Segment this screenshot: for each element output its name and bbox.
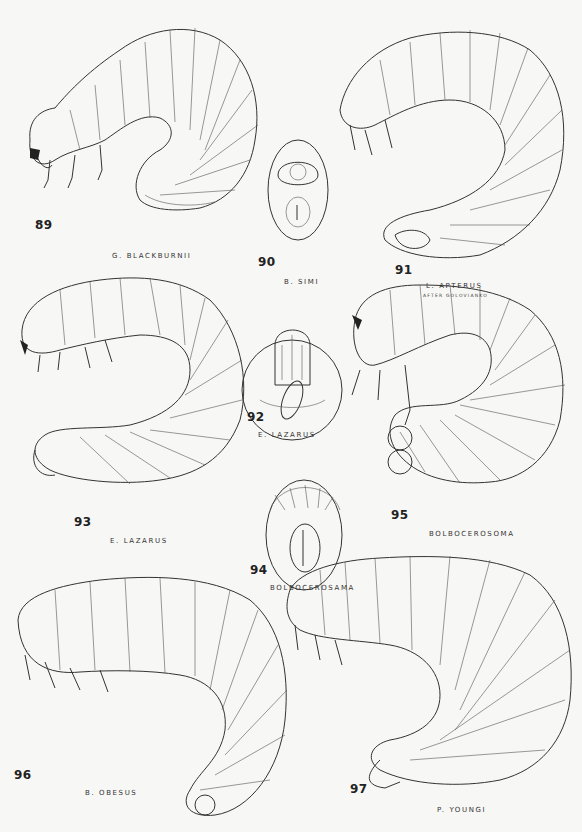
larva-drawing-89 xyxy=(30,28,258,210)
larva-drawing-91 xyxy=(340,30,564,258)
figure-caption-91: L. APTERUS xyxy=(426,282,483,290)
figure-caption-97: P. YOUNGI xyxy=(437,806,486,814)
plate-drawings xyxy=(0,0,582,832)
figure-caption-90: B. SIMI xyxy=(284,278,319,286)
larva-drawing-95 xyxy=(352,285,565,483)
spiracle-drawing-94 xyxy=(266,480,342,590)
figure-caption-89: G. BLACKBURNII xyxy=(112,252,191,260)
figure-caption-92: E. LAZARUS xyxy=(258,431,316,439)
larva-drawing-96 xyxy=(18,577,287,815)
figure-number-89: 89 xyxy=(35,218,53,232)
figure-caption-95: BOLBOCEROSOMA xyxy=(429,530,515,538)
figure-number-91: 91 xyxy=(395,263,413,277)
larva-drawing-93 xyxy=(20,278,244,484)
figure-number-93: 93 xyxy=(74,515,92,529)
figure-caption-93: E. LAZARUS xyxy=(110,537,168,545)
figure-number-92: 92 xyxy=(247,410,265,424)
figure-caption-96: B. OBESUS xyxy=(85,789,137,797)
figure-number-90: 90 xyxy=(258,255,276,269)
figure-number-94: 94 xyxy=(250,563,268,577)
figure-number-97: 97 xyxy=(350,782,368,796)
figure-number-96: 96 xyxy=(14,768,32,782)
figure-subcaption-91: AFTER GOLOVIANKO xyxy=(423,293,488,298)
spiracle-drawing-90 xyxy=(268,140,328,240)
figure-number-95: 95 xyxy=(391,508,409,522)
figure-caption-94: BOLBOCEROSAMA xyxy=(270,584,355,592)
